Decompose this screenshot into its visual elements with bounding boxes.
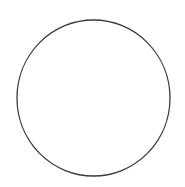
circle-outline bbox=[17, 20, 170, 176]
image-canvas bbox=[0, 0, 185, 187]
figure-svg bbox=[0, 0, 185, 187]
